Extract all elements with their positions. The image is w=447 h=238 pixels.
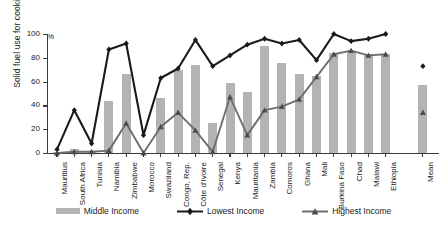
x-axis-line xyxy=(47,153,439,154)
x-axis-tick xyxy=(299,153,300,157)
x-axis-category-label: Ghana xyxy=(303,162,312,186)
x-axis-category-label: Chad xyxy=(355,162,364,181)
x-axis-category-label: Zimbabwe xyxy=(130,162,139,199)
data-point-triangle-icon xyxy=(175,110,181,115)
y-axis-tick-label: 80 xyxy=(31,54,40,62)
x-axis-category-label: Mauritania xyxy=(251,162,260,199)
x-axis-category-label: South Africa xyxy=(78,162,87,205)
x-axis-tick xyxy=(351,153,352,157)
plot-area: % 020406080100 MauritiusSouth AfricaTuni… xyxy=(47,22,439,153)
legend-item-highest-income[interactable]: Highest Income xyxy=(302,206,391,216)
data-point-diamond-icon xyxy=(349,38,354,44)
series-line xyxy=(57,34,386,149)
x-axis-category-label: Morocco xyxy=(147,162,156,193)
x-axis-tick xyxy=(195,153,196,157)
x-axis-category-label: Mean xyxy=(426,162,435,182)
legend-swatch-triangle-line-icon xyxy=(302,207,328,216)
x-axis-tick xyxy=(281,153,282,157)
data-point-diamond-icon xyxy=(420,63,425,69)
x-axis-tick xyxy=(247,153,248,157)
x-axis-category-label: Ethiopia xyxy=(389,162,398,191)
x-axis-category-label: Senegal xyxy=(216,162,225,191)
data-point-diamond-icon xyxy=(124,41,129,47)
x-axis-tick xyxy=(108,153,109,157)
x-axis-category-label: Swaziland xyxy=(164,162,173,198)
x-axis-category-label: Congo, Rep. xyxy=(182,162,191,207)
x-axis-category-label: Mauritius xyxy=(60,162,69,194)
y-axis-tick-label: 0 xyxy=(36,149,40,157)
x-axis-tick xyxy=(74,153,75,157)
x-axis-category-label: Mali xyxy=(320,162,329,177)
x-axis-tick xyxy=(229,153,230,157)
y-axis-tick-label: 60 xyxy=(31,78,40,86)
y-axis-tick-label: 20 xyxy=(31,125,40,133)
x-axis-tick xyxy=(316,153,317,157)
y-axis-title: Solid fuel use for cooking xyxy=(12,0,22,104)
x-axis-category-label: Kenya xyxy=(233,162,242,185)
legend-swatch-diamond-line-icon xyxy=(177,207,203,216)
legend-item-middle-income[interactable]: Middle Income xyxy=(56,206,139,216)
data-point-diamond-icon xyxy=(383,31,388,37)
x-axis-tick xyxy=(264,153,265,157)
x-axis-category-label: Côte d'Ivoire xyxy=(199,162,208,207)
x-axis-tick xyxy=(126,153,127,157)
data-point-triangle-icon xyxy=(420,110,426,115)
x-axis-category-label: Zambia xyxy=(268,162,277,189)
series-layer xyxy=(47,34,439,153)
x-axis-category-label: Namibia xyxy=(112,162,121,191)
legend-swatch-bar-icon xyxy=(56,208,80,214)
y-axis-tick xyxy=(43,153,47,154)
x-axis-category-label: Comoros xyxy=(285,162,294,194)
chart-legend: Middle Income Lowest Income Highest Inco… xyxy=(0,206,447,216)
x-axis-tick xyxy=(212,153,213,157)
x-axis-category-label: Burkina Faso xyxy=(337,162,346,209)
legend-label: Middle Income xyxy=(84,206,139,216)
x-axis-tick xyxy=(178,153,179,157)
x-axis-tick xyxy=(56,153,57,157)
y-axis-tick-label: 40 xyxy=(31,101,40,109)
x-axis-tick xyxy=(143,153,144,157)
y-axis-tick-label: 100 xyxy=(27,30,40,38)
x-axis-tick xyxy=(368,153,369,157)
data-point-diamond-icon xyxy=(366,36,371,42)
x-axis-tick xyxy=(333,153,334,157)
x-axis-category-label: Malawi xyxy=(372,162,381,187)
x-axis-tick xyxy=(160,153,161,157)
x-axis-tick xyxy=(422,153,423,157)
chart-container: Solid fuel use for cooking % 02040608010… xyxy=(0,0,447,238)
x-axis-category-label: Tunisia xyxy=(95,162,104,188)
legend-label: Lowest Income xyxy=(207,206,264,216)
x-axis-tick xyxy=(91,153,92,157)
data-point-diamond-icon xyxy=(262,36,267,42)
x-axis-tick xyxy=(385,153,386,157)
data-point-diamond-icon xyxy=(279,41,284,47)
data-point-diamond-icon xyxy=(141,132,146,138)
legend-item-lowest-income[interactable]: Lowest Income xyxy=(177,206,264,216)
data-point-triangle-icon xyxy=(227,94,233,99)
legend-label: Highest Income xyxy=(332,206,391,216)
data-point-triangle-icon xyxy=(123,120,129,125)
data-point-diamond-icon xyxy=(106,47,111,53)
